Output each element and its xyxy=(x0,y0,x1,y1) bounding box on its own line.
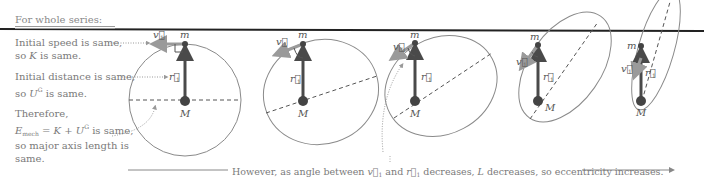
svg-text:1: 1 xyxy=(283,41,287,48)
label-M-3: M xyxy=(409,108,421,119)
label-m-1: m xyxy=(180,29,189,40)
angle-pointer-arrow xyxy=(382,65,402,152)
svg-text:1: 1 xyxy=(652,72,656,79)
svg-text:1: 1 xyxy=(160,34,164,41)
top-rule xyxy=(0,29,704,31)
label-m-2: m xyxy=(298,29,307,40)
orbit-highly-eccentric xyxy=(622,0,691,115)
label-m-4: m xyxy=(530,31,539,42)
svg-text:1: 1 xyxy=(628,68,632,75)
svg-text:1: 1 xyxy=(523,61,527,68)
svg-text:1: 1 xyxy=(550,76,554,83)
svg-text:1: 1 xyxy=(400,46,404,53)
svg-text:1: 1 xyxy=(176,76,180,83)
label-M-1: M xyxy=(179,108,191,119)
orbit-circular xyxy=(129,41,241,156)
small-mass-dot xyxy=(182,41,188,47)
label-M-2: M xyxy=(297,108,309,119)
svg-text:1: 1 xyxy=(297,78,301,85)
orbit-moderately-eccentric xyxy=(367,16,514,155)
note-therefore: Therefore, Emech = K + UG is same, so ma… xyxy=(15,108,133,165)
svg-text:1: 1 xyxy=(428,76,432,83)
label-M-5: M xyxy=(635,107,647,118)
eccentricity-caption: However, as angle between v⃗1 and r⃗1 de… xyxy=(232,166,663,178)
note-distance: Initial distance is same, so UG is same. xyxy=(15,71,135,100)
orbit-slightly-eccentric xyxy=(250,25,392,160)
label-m-5: m xyxy=(627,40,636,51)
large-mass-dot xyxy=(180,96,190,106)
label-m-3: m xyxy=(410,29,419,40)
note-speed: Initial speed is same, so K is same. xyxy=(15,37,122,62)
orbit-eccentric xyxy=(500,0,630,138)
label-M-4: M xyxy=(544,102,556,113)
series-heading: For whole series: xyxy=(15,14,115,29)
